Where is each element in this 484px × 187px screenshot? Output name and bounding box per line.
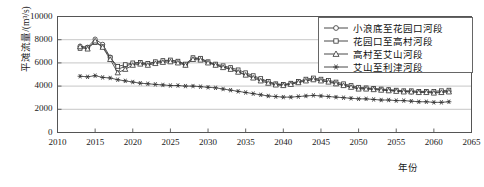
data-point-star [78,74,83,78]
y-tick-label: 6000 [13,57,53,67]
data-point-star [221,87,226,91]
data-point-star [303,94,308,98]
x-tick-label: 2045 [301,137,341,147]
data-point-star [349,96,354,100]
legend-marker-star [323,61,349,73]
data-point-square [116,64,120,68]
y-tick-label: 4000 [13,80,53,90]
data-point-star [326,94,331,98]
y-tick-label: 2000 [13,103,53,113]
data-point-star [251,91,256,95]
legend-item-2[interactable]: 高村至艾山河段 [323,47,423,60]
x-tick-label: 2015 [75,137,115,147]
legend-marker-square [323,35,349,47]
data-point-star [258,93,263,97]
data-point-star [273,94,278,98]
data-point-star [281,95,286,99]
data-point-square [334,38,338,42]
data-point-star [446,100,451,104]
legend-label: 小浪底至花园口河段 [353,21,443,35]
data-point-star [431,100,436,104]
data-point-star [371,97,376,101]
data-point-star [123,79,128,83]
legend-label: 高村至艾山河段 [353,47,423,61]
data-point-star [394,98,399,102]
legend: 小浪底至花园口河段花园口至高村河段高村至艾山河段艾山至利津河段 [318,17,473,73]
data-point-star [296,94,301,98]
y-tick-label: 0 [13,127,53,137]
legend-item-0[interactable]: 小浪底至花园口河段 [323,21,443,34]
data-point-star [409,99,414,103]
data-point-star [236,89,241,93]
legend-label: 艾山至利津河段 [353,60,423,74]
data-point-star [364,97,369,101]
data-point-circle [334,25,339,30]
data-point-star [85,75,90,79]
data-point-star [266,94,271,98]
data-point-star [100,75,105,79]
data-point-star [311,93,316,97]
data-point-star [386,98,391,102]
data-point-star [379,98,384,102]
data-point-star [198,85,203,89]
x-tick-label: 2035 [226,137,266,147]
legend-item-1[interactable]: 花园口至高村河段 [323,34,433,47]
data-point-star [183,84,188,88]
legend-label: 花园口至高村河段 [353,34,433,48]
data-point-star [439,100,444,104]
data-point-star [288,95,293,99]
x-tick-label: 2065 [452,137,484,147]
data-point-star [416,100,421,104]
data-point-star [130,80,135,84]
data-point-star [115,78,120,82]
data-point-star [243,90,248,94]
x-tick-label: 2055 [376,137,416,147]
x-tick-label: 2025 [150,137,190,147]
x-tick-label: 2010 [38,137,78,147]
y-tick-label: 8000 [13,34,53,44]
data-point-star [333,64,339,69]
x-tick-label: 2030 [188,137,228,147]
data-point-star [108,76,113,80]
data-point-star [334,95,339,99]
legend-marker-triangle [323,48,349,60]
data-point-star [175,83,180,87]
data-point-star [93,73,98,77]
x-axis-label: 年份 [398,160,418,174]
data-point-star [424,100,429,104]
data-point-star [145,82,150,86]
x-tick-label: 2060 [414,137,454,147]
data-point-star [228,88,233,92]
x-tick-label: 2050 [339,137,379,147]
data-point-star [341,96,346,100]
y-tick-label: 10000 [13,11,53,21]
legend-item-3[interactable]: 艾山至利津河段 [323,60,423,73]
data-point-star [168,83,173,87]
x-tick-label: 2040 [263,137,303,147]
legend-marker-circle [323,22,349,34]
data-point-star [318,94,323,98]
data-point-star [356,97,361,101]
data-point-star [401,98,406,102]
data-point-star [190,84,195,88]
data-point-star [138,81,143,85]
x-tick-label: 2020 [113,137,153,147]
